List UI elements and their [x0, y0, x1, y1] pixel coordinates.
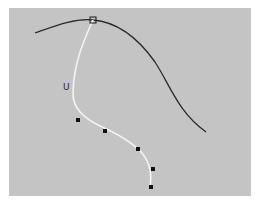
curve-canvas	[0, 0, 255, 204]
control-point[interactable]	[151, 167, 155, 171]
control-point[interactable]	[149, 185, 153, 189]
u-direction-label: U	[63, 83, 70, 92]
rail-curve[interactable]	[35, 20, 206, 132]
control-point[interactable]	[103, 129, 107, 133]
profile-curve[interactable]	[73, 20, 151, 187]
control-point[interactable]	[76, 118, 80, 122]
control-point[interactable]	[136, 147, 140, 151]
